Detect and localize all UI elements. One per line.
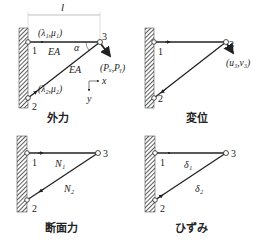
panel-displacement: 1 2 3 (u₃,v₃) 変位 bbox=[145, 28, 250, 125]
axis-y-label: y bbox=[86, 93, 92, 104]
panel-strain: 1 2 3 δ₁ δ₂ ひずみ bbox=[145, 136, 236, 235]
node-3 bbox=[224, 151, 229, 156]
node-1 bbox=[152, 40, 157, 45]
load-label: (Pₓ,Pᵧ) bbox=[100, 63, 125, 74]
member-1-mark bbox=[41, 41, 43, 43]
node-1-label: 1 bbox=[32, 157, 37, 168]
node-3-label: 3 bbox=[102, 31, 107, 42]
node-1-label: 1 bbox=[158, 46, 163, 57]
node-1-label: 1 bbox=[160, 157, 165, 168]
node-1 bbox=[26, 40, 31, 45]
node-2-label: 2 bbox=[160, 203, 165, 214]
node-1 bbox=[25, 151, 30, 156]
node-2-label: 2 bbox=[32, 101, 37, 112]
node-3 bbox=[96, 151, 101, 156]
member2-label: N₂ bbox=[63, 183, 75, 194]
node-2 bbox=[26, 96, 31, 101]
node-3-label: 3 bbox=[103, 148, 108, 159]
panel-caption: 変位 bbox=[186, 111, 208, 125]
panel-caption: ひずみ bbox=[175, 221, 208, 235]
member1-label: δ₁ bbox=[184, 159, 192, 170]
member1-label: N₁ bbox=[54, 158, 65, 169]
node-2 bbox=[153, 198, 158, 203]
node-2-label: 2 bbox=[32, 203, 37, 214]
node2-param: (λ₂,μ₂) bbox=[38, 84, 62, 95]
member-1-mark bbox=[168, 152, 170, 154]
node-2 bbox=[25, 198, 30, 203]
coordinate-axes bbox=[89, 81, 99, 91]
node-2 bbox=[152, 96, 157, 101]
angle-label: α bbox=[74, 42, 80, 53]
member-2-arrow bbox=[39, 189, 44, 192]
angle-arc bbox=[86, 42, 89, 51]
node-1 bbox=[153, 151, 158, 156]
node-3-label: 3 bbox=[231, 148, 236, 159]
node-2-label: 2 bbox=[158, 93, 163, 104]
member-2-arrow bbox=[32, 91, 37, 95]
panel-external-force: l (λ₁,μ₁) 1 EA α 3 EA (Pₓ,Pᵧ) (λ₂,μ₂) 2 … bbox=[19, 1, 125, 125]
axis-x-label: x bbox=[101, 75, 107, 86]
panel-section-force: 1 2 3 N₁ N₂ 断面力 bbox=[17, 136, 108, 235]
dimension-label: l bbox=[61, 1, 64, 13]
member2-label: EA bbox=[68, 64, 82, 75]
truss-diagram: l (λ₁,μ₁) 1 EA α 3 EA (Pₓ,Pᵧ) (λ₂,μ₂) 2 … bbox=[0, 0, 259, 242]
panel-caption: 外力 bbox=[46, 111, 69, 125]
node-3 bbox=[224, 40, 229, 45]
node-3-label: 3 bbox=[229, 39, 234, 50]
panel-caption: 断面力 bbox=[45, 221, 78, 235]
load-arrow bbox=[101, 44, 110, 56]
displacement-label: (u₃,v₃) bbox=[226, 58, 250, 69]
member1-label: EA bbox=[47, 46, 61, 57]
node1-param: (λ₁,μ₁) bbox=[38, 28, 62, 39]
member2-label: δ₂ bbox=[195, 183, 204, 194]
node-1-label: 1 bbox=[32, 45, 37, 56]
member-2-arrow bbox=[158, 195, 163, 198]
